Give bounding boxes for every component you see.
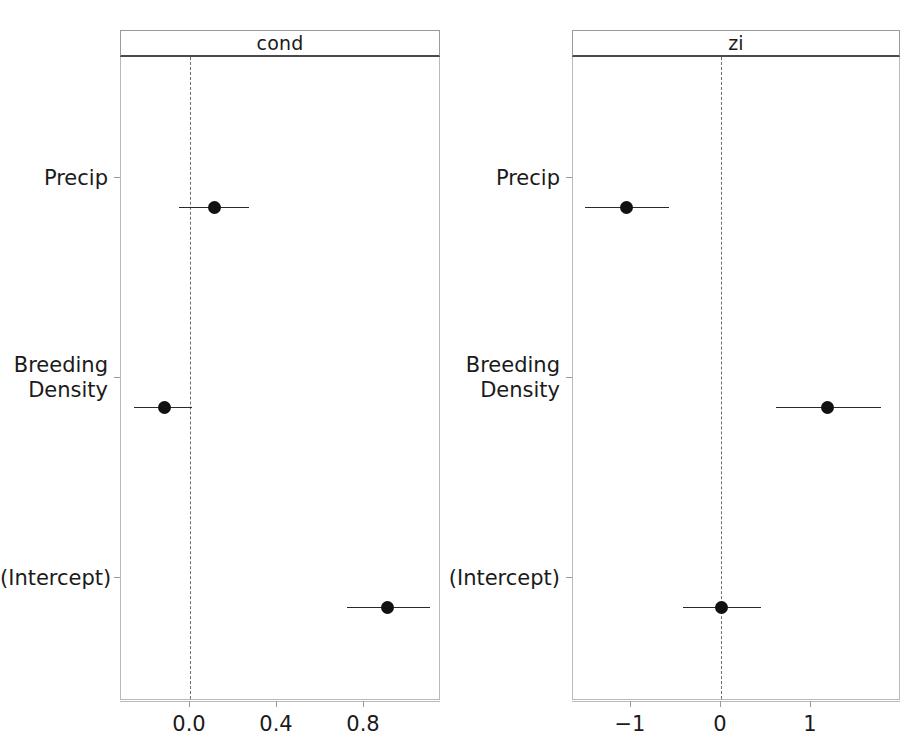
y-tick-zi-intercept [566, 577, 572, 578]
point-estimate-cond-intercept [381, 601, 394, 614]
x-tick-cond-2 [363, 701, 364, 707]
y-tick-precip [114, 177, 120, 178]
point-estimate-cond-breeding-density [158, 401, 171, 414]
facet-strip-label-cond: cond [257, 34, 304, 53]
y-tick-zi-breeding-density [566, 377, 572, 378]
facet-panel-cond: cond [120, 30, 440, 700]
x-tick-label-cond-2: 0.8 [346, 712, 379, 736]
facet-plot-area-cond [120, 57, 440, 700]
x-tick-label-cond-1: 0.4 [259, 712, 292, 736]
y-tick-intercept [114, 577, 120, 578]
x-tick-label-zi-1: 0 [713, 712, 726, 736]
point-estimate-zi-precip [620, 201, 633, 214]
x-tick-cond-0 [189, 701, 190, 707]
reference-line-cond [190, 57, 191, 699]
x-tick-label-zi-0: −1 [615, 712, 646, 736]
point-estimate-zi-intercept [715, 601, 728, 614]
y-axis-label-precip: Precip [0, 166, 108, 191]
facet-strip-zi: zi [572, 30, 900, 57]
y-axis-label-zi-intercept: (Intercept) [440, 566, 560, 591]
coefficient-plot: cond Precip Breeding Density (Intercept)… [0, 0, 919, 755]
y-axis-label-intercept: (Intercept) [0, 566, 108, 591]
y-axis-label-breeding-density: Breeding Density [0, 353, 108, 403]
x-tick-zi-2 [810, 701, 811, 707]
facet-plot-area-zi [572, 57, 900, 700]
point-estimate-cond-precip [208, 201, 221, 214]
y-axis-label-zi-precip: Precip [440, 166, 560, 191]
x-tick-cond-1 [276, 701, 277, 707]
x-tick-label-zi-2: 1 [803, 712, 816, 736]
x-axis-line-cond [120, 701, 440, 702]
y-tick-zi-precip [566, 177, 572, 178]
facet-panel-zi: zi [572, 30, 900, 700]
y-tick-breeding-density [114, 377, 120, 378]
y-axis-label-zi-breeding-density: Breeding Density [440, 353, 560, 403]
x-tick-zi-0 [630, 701, 631, 707]
point-estimate-zi-breeding-density [821, 401, 834, 414]
facet-strip-label-zi: zi [728, 34, 744, 53]
x-axis-line-zi [572, 701, 900, 702]
x-tick-zi-1 [720, 701, 721, 707]
facet-strip-cond: cond [120, 30, 440, 57]
x-tick-label-cond-0: 0.0 [172, 712, 205, 736]
